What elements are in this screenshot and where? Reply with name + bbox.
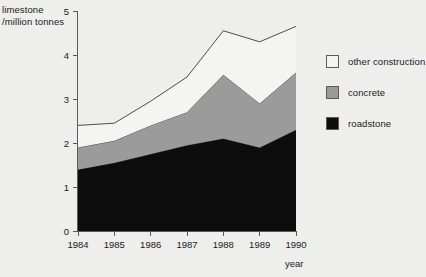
x-tick-label: 1988 bbox=[213, 239, 234, 250]
x-tick-label: 1989 bbox=[249, 239, 270, 250]
legend-item[interactable]: concrete bbox=[326, 85, 424, 99]
legend-swatch-icon bbox=[326, 86, 339, 99]
legend-item[interactable]: roadstone bbox=[326, 116, 424, 130]
y-tick-label: 3 bbox=[64, 94, 69, 105]
x-tick-label: 1986 bbox=[140, 239, 161, 250]
legend-item-label: roadstone bbox=[348, 118, 391, 129]
legend-swatch-icon bbox=[326, 55, 339, 68]
x-tick-label: 1985 bbox=[104, 239, 125, 250]
y-tick-label: 0 bbox=[64, 226, 69, 237]
legend-item[interactable]: other construction bbox=[326, 54, 424, 68]
x-tick-label: 1987 bbox=[176, 239, 197, 250]
y-tick-label: 2 bbox=[64, 138, 69, 149]
x-axis-title: year bbox=[285, 258, 303, 269]
chart-legend: other constructionconcreteroadstone bbox=[326, 54, 424, 147]
x-tick-label: 1990 bbox=[285, 239, 306, 250]
legend-item-label: concrete bbox=[348, 87, 385, 98]
y-tick-label: 5 bbox=[64, 6, 69, 17]
area-chart: limestone /million tonnes 01234519841985… bbox=[0, 0, 426, 277]
legend-item-label: other construction bbox=[348, 56, 425, 67]
y-tick-label: 1 bbox=[64, 182, 69, 193]
legend-swatch-icon bbox=[326, 117, 339, 130]
series-layer bbox=[78, 26, 296, 231]
y-tick-label: 4 bbox=[64, 50, 69, 61]
x-tick-label: 1984 bbox=[67, 239, 88, 250]
